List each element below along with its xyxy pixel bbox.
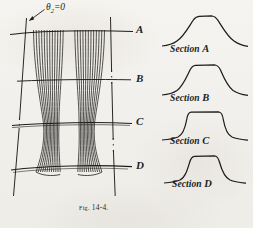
pole-axis-right — [111, 17, 112, 72]
section-label-A-prefix: Section — [170, 44, 200, 54]
flux-line-bundle-right — [75, 30, 105, 172]
section-line-B — [17, 79, 131, 81]
pole-axis-right-lower — [113, 150, 115, 196]
section-label-C-prefix: Section — [170, 136, 200, 146]
section-line-C-shadow — [12, 125, 130, 128]
pole-axis-left-lower — [14, 128, 20, 196]
field-plot-diagram — [0, 0, 150, 200]
flux-foot-marks — [36, 172, 102, 176]
section-label-A: Section A — [170, 44, 209, 55]
figure-caption-prefix: Fig. — [79, 205, 90, 211]
figure-caption-number: 14-4. — [92, 203, 109, 212]
theta-zero-label: θ2=0 — [46, 2, 65, 14]
theta-value: =0 — [54, 2, 65, 12]
section-label-B-prefix: Section — [170, 93, 200, 103]
section-line-D-shadow — [13, 168, 128, 172]
theta-leader-arrow — [29, 10, 45, 21]
section-label-D: Section D — [172, 179, 212, 190]
section-label-D-letter: D — [204, 178, 212, 189]
figure-page: θ2=0 A B C D Section A Section B Section… — [0, 0, 253, 228]
section-line-label-B: B — [136, 73, 143, 84]
figure-caption: Fig. 14-4. — [79, 203, 108, 212]
section-line-label-D: D — [136, 160, 144, 171]
section-line-A — [10, 31, 133, 35]
section-label-D-prefix: Section — [172, 179, 202, 189]
flux-line-bundle-left — [34, 30, 64, 172]
section-label-A-letter: A — [202, 43, 209, 54]
section-label-B-letter: B — [202, 92, 209, 103]
section-label-C: Section C — [170, 136, 209, 147]
section-label-B: Section B — [170, 93, 209, 104]
pole-axis-right-mid — [112, 82, 113, 140]
section-line-label-A: A — [136, 24, 143, 35]
section-label-C-letter: C — [202, 135, 209, 146]
section-line-label-C: C — [136, 116, 143, 127]
